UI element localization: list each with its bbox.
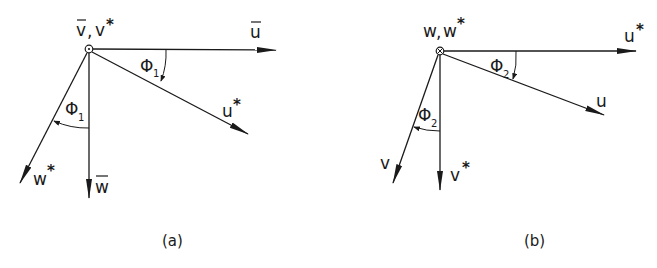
svg-text:u: u — [250, 22, 261, 42]
svg-text:v: v — [76, 20, 86, 40]
svg-text:w: w — [423, 21, 437, 41]
panel-b: w , w * u * u v * v Φ 2 Φ — [380, 15, 644, 250]
svg-text:2: 2 — [503, 69, 509, 80]
svg-text:,: , — [87, 21, 92, 41]
ustar-axis-arrow — [92, 52, 248, 134]
svg-text:*: * — [233, 96, 241, 114]
svg-text:v: v — [450, 165, 460, 185]
phi2-angle-arc-top — [513, 51, 516, 79]
panel-a-caption: (a) — [162, 232, 183, 250]
panel-a: v , v * u u * w w * — [20, 16, 276, 250]
ustar-label: u * — [222, 96, 241, 121]
svg-text:1: 1 — [78, 112, 84, 123]
svg-text:1: 1 — [153, 68, 159, 79]
svg-text:*: * — [462, 159, 470, 177]
svg-text:*: * — [106, 16, 114, 34]
phi1-angle-arc-top — [161, 50, 166, 81]
svg-text:,: , — [436, 22, 441, 42]
svg-text:w: w — [95, 177, 109, 197]
svg-text:v: v — [95, 20, 105, 40]
origin-dot-in-circle-icon — [85, 45, 93, 53]
u-label-b: u — [596, 91, 607, 111]
svg-text:Φ: Φ — [490, 56, 503, 76]
panel-b-caption: (b) — [524, 232, 545, 250]
svg-text:w: w — [33, 169, 47, 189]
origin-label-a: v , v * — [76, 16, 114, 41]
svg-text:*: * — [457, 15, 465, 33]
svg-text:2: 2 — [431, 118, 437, 129]
phi2-label-top: Φ 2 — [490, 56, 509, 80]
origin-label-b: w , w * — [423, 15, 465, 42]
phi1-label-top: Φ 1 — [140, 56, 159, 79]
svg-text:Φ: Φ — [418, 105, 431, 125]
origin-cross-in-circle-icon — [436, 47, 444, 55]
ubar-axis-arrow — [93, 49, 276, 50]
coordinate-rotation-diagram: v , v * u u * w w * — [0, 0, 657, 268]
svg-text:u: u — [222, 101, 233, 121]
svg-text:u: u — [624, 26, 635, 46]
svg-text:*: * — [47, 162, 55, 180]
u-axis-arrow-b — [443, 54, 604, 115]
ustar-label-b: u * — [624, 21, 644, 46]
svg-text:Φ: Φ — [65, 99, 78, 119]
ubar-label: u — [250, 22, 261, 42]
wbar-label: w — [95, 176, 109, 197]
svg-text:Φ: Φ — [140, 56, 153, 76]
svg-text:*: * — [636, 21, 644, 39]
phi1-label-bottom: Φ 1 — [65, 99, 84, 123]
v-label-b: v — [380, 153, 390, 173]
vstar-label-b: v * — [450, 159, 470, 185]
wstar-label: w * — [33, 162, 55, 189]
svg-text:w: w — [443, 21, 457, 41]
phi2-label-bottom: Φ 2 — [418, 105, 437, 129]
